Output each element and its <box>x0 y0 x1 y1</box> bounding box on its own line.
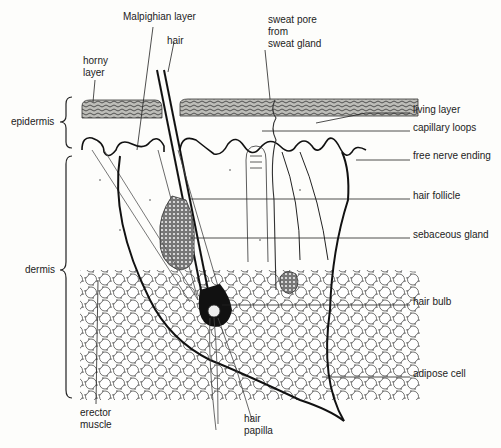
dermal-papillae-boundary <box>82 138 366 156</box>
label-erector-muscle: erector muscle <box>80 407 112 431</box>
label-hair-follicle: hair follicle <box>413 190 460 202</box>
hair-papilla <box>208 305 220 317</box>
dermis-speckles <box>99 169 341 251</box>
label-malpighian-layer: Malpighian layer <box>123 11 196 23</box>
label-dermis: dermis <box>25 264 55 276</box>
label-epidermis: epidermis <box>11 116 54 128</box>
epidermis-bracket <box>60 97 72 148</box>
label-adipose-cell: adipose cell <box>413 368 466 380</box>
sebaceous-gland <box>160 196 195 270</box>
horny-layer-left <box>82 100 162 118</box>
label-sebaceous-gland: sebaceous gland <box>413 229 489 241</box>
label-living-layer: living layer <box>413 104 460 116</box>
label-hair-papilla: hair papilla <box>244 413 273 437</box>
nerve-branches <box>282 152 328 260</box>
label-free-nerve-ending: free nerve ending <box>413 150 491 162</box>
dermis-bracket <box>60 156 72 398</box>
label-hair: hair <box>167 35 184 47</box>
label-sweat-pore: sweat pore from sweat gland <box>268 14 321 50</box>
skin-illustration <box>0 0 501 448</box>
capillary-loop <box>246 146 268 262</box>
skin-diagram: Malpighian layer hair horny layer sweat … <box>0 0 501 448</box>
label-capillary-loops: capillary loops <box>413 122 476 134</box>
label-hair-bulb: hair bulb <box>413 296 451 308</box>
horny-layer-right <box>180 99 418 116</box>
sweat-duct <box>272 100 276 290</box>
adipose-tissue <box>80 270 420 400</box>
sweat-gland-coil <box>280 272 298 294</box>
label-horny-layer: horny layer <box>83 55 108 79</box>
